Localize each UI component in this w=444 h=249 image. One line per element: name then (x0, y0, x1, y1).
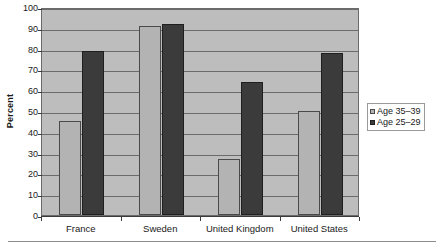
bar (298, 111, 320, 215)
plot-area (41, 8, 359, 216)
y-axis-tick-label: 20 (14, 170, 38, 179)
x-axis-tick-mark (41, 217, 42, 221)
y-axis-tick-label: 60 (14, 87, 38, 96)
y-axis-tick-label: 30 (14, 149, 38, 158)
bar (218, 159, 240, 215)
y-axis-tick-label: 100 (14, 4, 38, 13)
bar (241, 82, 263, 215)
y-axis-tick-label: 80 (14, 45, 38, 54)
bar (321, 53, 343, 215)
y-axis-tick-label: 40 (14, 128, 38, 137)
bar-chart-figure: Percent 0102030405060708090100 FranceSwe… (0, 0, 444, 249)
legend-item-label: Age 25–29 (377, 117, 421, 128)
y-axis-tick-labels: 0102030405060708090100 (14, 8, 38, 216)
legend-item: Age 35–39 (370, 106, 421, 117)
legend-swatch-icon (370, 120, 375, 125)
bars-layer (42, 9, 358, 215)
bar (162, 24, 184, 215)
y-axis-tick-label: 70 (14, 66, 38, 75)
x-axis-tick-label: France (66, 223, 96, 234)
x-axis-tick-mark (121, 217, 122, 221)
y-axis-tick-label: 0 (14, 212, 38, 221)
x-axis-tick-labels: FranceSwedenUnited KingdomUnited States (41, 221, 359, 237)
legend-item: Age 25–29 (370, 117, 421, 128)
bar (59, 121, 81, 215)
legend-swatch-icon (370, 109, 375, 114)
x-axis-tick-mark (359, 217, 360, 221)
x-axis-tick-label: United States (291, 223, 348, 234)
x-axis-tick-mark (280, 217, 281, 221)
y-axis-tick-label: 50 (14, 108, 38, 117)
bar (139, 26, 161, 215)
y-axis-tick-label: 10 (14, 191, 38, 200)
y-axis-tick-label: 90 (14, 24, 38, 33)
x-axis-tick-mark (200, 217, 201, 221)
chart-legend: Age 35–39Age 25–29 (367, 103, 425, 131)
legend-item-label: Age 35–39 (377, 106, 421, 117)
footer-divider (8, 241, 436, 242)
bar (82, 51, 104, 215)
x-axis-tick-label: Sweden (143, 223, 177, 234)
x-axis-tick-label: United Kingdom (206, 223, 274, 234)
